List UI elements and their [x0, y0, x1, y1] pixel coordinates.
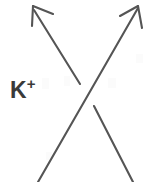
under-strand-group: [32, 6, 133, 182]
under-strand-lower-line: [94, 106, 133, 182]
crossing-label: K+: [10, 76, 35, 102]
up-right-arrowhead-barb-2: [138, 6, 142, 28]
under-strand-upper-line: [34, 10, 80, 84]
over-strand-line: [38, 8, 138, 182]
crossing-label-sign: +: [27, 75, 36, 92]
crossing-label-base: K: [10, 77, 27, 103]
up-left-arrowhead-barb-1: [32, 6, 33, 26]
knot-crossing-figure: K+: [0, 0, 156, 182]
over-strand-group: [38, 6, 142, 182]
